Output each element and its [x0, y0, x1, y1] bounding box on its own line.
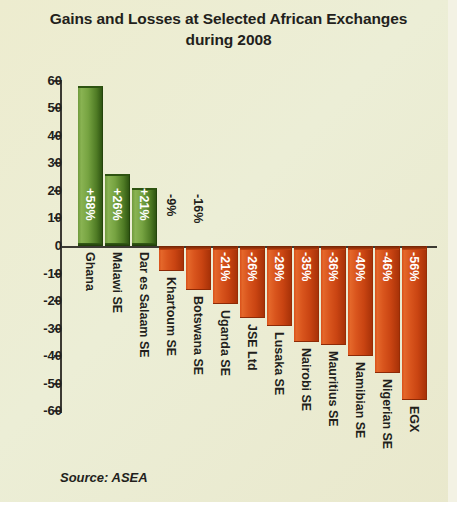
category-label-botswana-se: Botswana SE [191, 296, 205, 375]
bar-value-label: -40% [353, 252, 367, 282]
bar-khartoum-se[interactable] [159, 246, 184, 271]
category-label-uganda-se: Uganda SE [218, 310, 232, 376]
y-axis-tick-label: -30 [16, 321, 62, 336]
category-label-ghana: Ghana [83, 252, 97, 291]
bar-value-label: -26% [245, 252, 259, 282]
y-axis-tick-label: 60 [16, 73, 62, 88]
category-label-dar-es-salaam-se: Dar es Salaam SE [137, 252, 151, 358]
chart-figure: Gains and Losses at Selected African Exc… [0, 0, 457, 516]
bar-value-label: -29% [272, 252, 286, 282]
bar-value-label: -36% [326, 252, 340, 282]
category-label-mauritius-se: Mauritius SE [326, 351, 340, 427]
y-axis-tick-label: -50 [16, 376, 62, 391]
category-label-khartoum-se: Khartoum SE [164, 277, 178, 356]
page-bottom-margin [0, 502, 457, 516]
y-axis-tick-label: 10 [16, 210, 62, 225]
category-label-nairobi-se: Nairobi SE [299, 348, 313, 411]
bar-value-label: -35% [299, 252, 313, 282]
bar-value-label: +58% [83, 188, 97, 221]
bar-value-label: -21% [218, 252, 232, 282]
bar-value-label: -16% [191, 194, 205, 224]
plot-area: 6050403020100-10-20-30-40-50-60 +58%Ghan… [0, 0, 457, 516]
bar-value-label: -46% [380, 252, 394, 282]
source-note: Source: ASEA [60, 470, 148, 485]
category-label-namibian-se: Namibian SE [353, 362, 367, 438]
y-axis-tick-label: -20 [16, 293, 62, 308]
category-label-jse-ltd: JSE Ltd [245, 324, 259, 371]
bar-value-label: -9% [164, 194, 178, 217]
bar-value-label: +21% [137, 188, 151, 221]
category-label-egx: EGX [407, 406, 421, 432]
category-label-malawi-se: Malawi SE [110, 252, 124, 313]
y-axis-tick-label: 20 [16, 183, 62, 198]
y-axis-tick-label: -10 [16, 266, 62, 281]
y-axis-tick-label: 40 [16, 128, 62, 143]
y-axis-tick-label: 0 [16, 238, 62, 253]
y-axis-tick-label: -40 [16, 348, 62, 363]
y-axis-tick-label: -60 [16, 403, 62, 418]
bar-botswana-se[interactable] [186, 246, 211, 290]
y-axis-tick-label: 30 [16, 155, 62, 170]
y-axis-tick-label: 50 [16, 100, 62, 115]
category-label-lusaka-se: Lusaka SE [272, 332, 286, 395]
bar-ghana[interactable] [78, 86, 103, 246]
bar-value-label: -56% [407, 252, 421, 282]
category-label-nigerian-se: Nigerian SE [380, 379, 394, 449]
bar-value-label: +26% [110, 188, 124, 221]
